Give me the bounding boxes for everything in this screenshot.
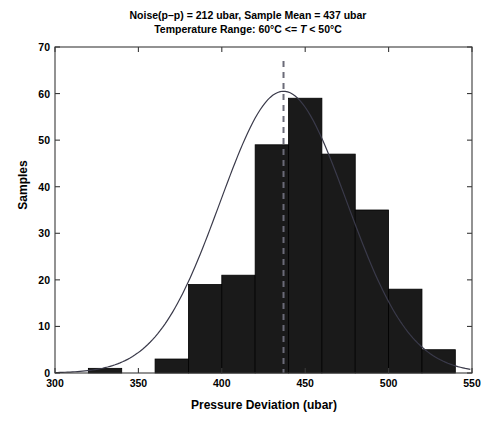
plot-svg (0, 0, 496, 426)
histogram-bar (188, 285, 221, 373)
histogram-figure: Noise(p–p) = 212 ubar, Sample Mean = 437… (0, 0, 496, 426)
histogram-bar (155, 359, 188, 373)
histogram-bar (222, 275, 255, 373)
histogram-bar (389, 289, 422, 373)
histogram-bar (322, 154, 355, 373)
histogram-bar (289, 98, 322, 373)
histogram-bar (422, 350, 455, 373)
histogram-bar (88, 368, 121, 373)
histogram-bars (88, 98, 455, 373)
